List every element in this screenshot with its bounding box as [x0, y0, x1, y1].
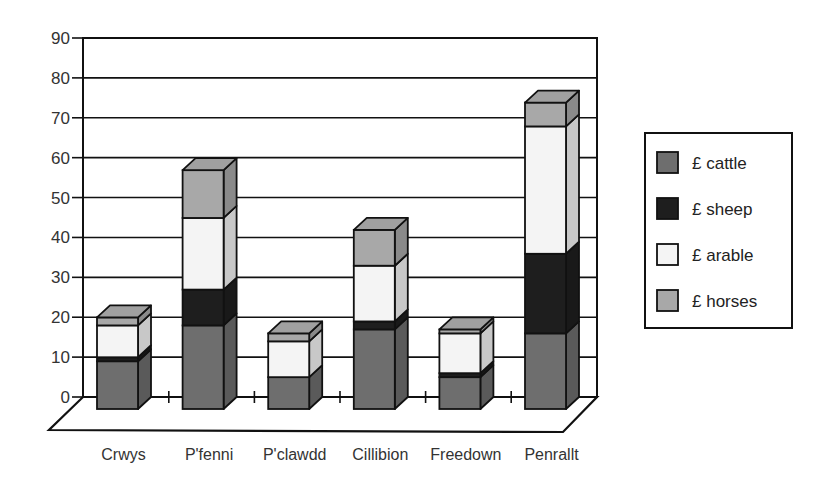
legend-swatch: [657, 198, 678, 219]
bar-segment-0: [97, 361, 138, 409]
bar-segment-2: [268, 341, 309, 377]
bar-pclawdd: [268, 321, 322, 409]
y-tick-label: 10: [51, 348, 70, 367]
bar-cillibion: [354, 218, 408, 409]
bar-side-0: [395, 317, 408, 409]
bar-pfenni: [183, 158, 237, 409]
x-tick-label: Crwys: [101, 446, 145, 463]
legend-swatch: [657, 290, 678, 311]
bar-segment-3: [97, 317, 138, 325]
bar-segment-1: [525, 254, 566, 334]
y-tick-label: 0: [61, 388, 70, 407]
bar-segment-2: [183, 218, 224, 290]
y-axis: 0102030405060708090: [51, 29, 83, 407]
bar-segment-2: [525, 126, 566, 253]
bar-side-0: [224, 313, 237, 409]
bar-segment-1: [183, 290, 224, 326]
bar-side-2: [224, 206, 237, 290]
legend-label: £ sheep: [692, 200, 753, 219]
bar-side-1: [566, 242, 579, 334]
bar-segment-0: [183, 325, 224, 409]
legend-swatch: [657, 152, 678, 173]
y-tick-label: 40: [51, 228, 70, 247]
bar-freedown: [439, 317, 493, 409]
bar-penrallt: [525, 91, 579, 409]
bar-segment-1: [354, 321, 395, 329]
bar-segment-0: [525, 333, 566, 409]
y-tick-label: 60: [51, 149, 70, 168]
bar-segment-3: [354, 230, 395, 266]
back-wall: [83, 38, 597, 397]
y-tick-label: 70: [51, 109, 70, 128]
x-tick-label: Penrallt: [524, 446, 579, 463]
legend-swatch: [657, 244, 678, 265]
bar-side-2: [566, 114, 579, 253]
legend-label: £ horses: [692, 292, 757, 311]
stacked-3d-column-chart: 0102030405060708090 CrwysP'fenniP'clawdd…: [0, 0, 835, 489]
bar-segment-3: [525, 103, 566, 127]
x-tick-label: P'clawdd: [263, 446, 327, 463]
y-tick-label: 90: [51, 29, 70, 48]
x-tick-label: Freedown: [430, 446, 501, 463]
y-tick-label: 20: [51, 308, 70, 327]
bar-segment-0: [439, 377, 480, 409]
bar-segment-0: [268, 377, 309, 409]
bar-segment-0: [354, 329, 395, 409]
bar-segment-2: [97, 325, 138, 357]
bar-segment-2: [354, 266, 395, 322]
legend-label: £ arable: [692, 246, 753, 265]
x-tick-label: Cillibion: [352, 446, 408, 463]
bar-segment-3: [183, 170, 224, 218]
y-tick-label: 30: [51, 268, 70, 287]
x-tick-label: P'fenni: [185, 446, 233, 463]
bar-side-0: [566, 321, 579, 409]
bar-crwys: [97, 305, 151, 409]
bar-segment-3: [268, 333, 309, 341]
legend-label: £ cattle: [692, 154, 747, 173]
y-tick-label: 80: [51, 69, 70, 88]
legend: £ cattle£ sheep£ arable£ horses: [645, 133, 792, 328]
y-tick-label: 50: [51, 189, 70, 208]
bar-segment-2: [439, 333, 480, 373]
